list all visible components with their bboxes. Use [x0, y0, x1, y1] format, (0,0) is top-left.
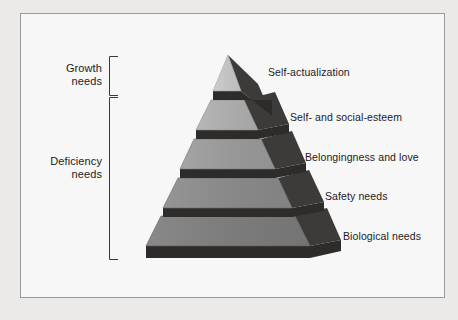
figure-canvas: Growth needs Deficiency needs — [0, 0, 458, 320]
tier-label-self-actualization: Self-actualization — [268, 66, 350, 79]
tier-label-self-and-social-esteem: Self- and social-esteem — [290, 111, 402, 124]
tier-label-biological-needs: Biological needs — [343, 230, 421, 243]
tier-label-belongingness-and-love: Belongingness and love — [305, 151, 419, 164]
tier-label-safety-needs: Safety needs — [325, 190, 388, 203]
